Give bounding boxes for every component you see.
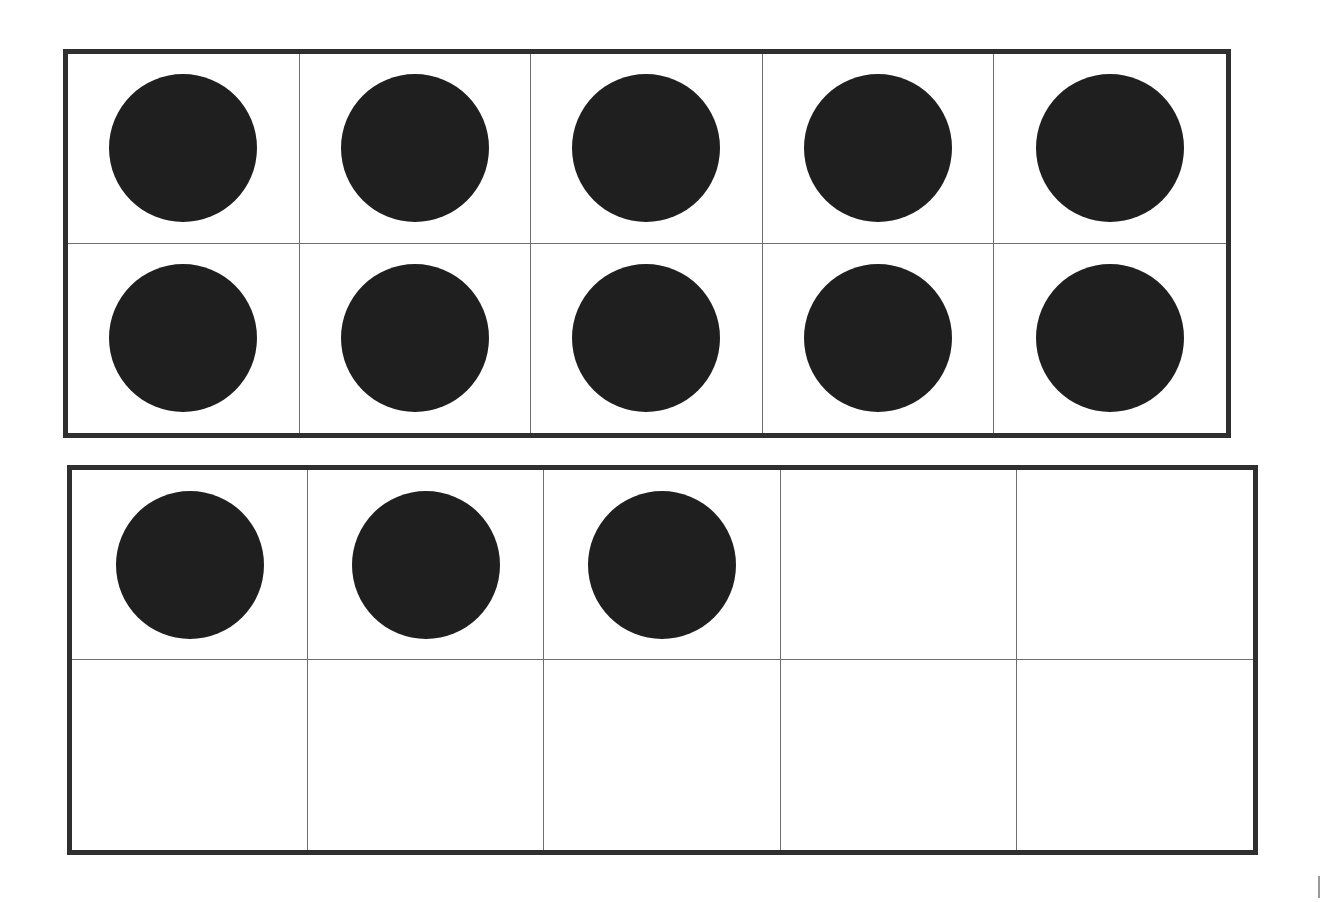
counter-dot-icon <box>804 264 952 412</box>
counter-dot-icon <box>1036 74 1184 222</box>
ten-frame-cell <box>72 470 308 660</box>
ten-frame-cell <box>308 470 544 660</box>
ten-frame-cell <box>781 470 1017 660</box>
ten-frame-cell <box>994 244 1226 434</box>
ten-frame-cell <box>544 660 780 850</box>
counter-dot-icon <box>352 491 500 639</box>
ten-frame-cell <box>544 470 780 660</box>
bottom-ten-frame <box>67 465 1258 855</box>
counter-dot-icon <box>588 491 736 639</box>
counter-dot-icon <box>572 264 720 412</box>
counter-dot-icon <box>1036 264 1184 412</box>
counter-dot-icon <box>804 74 952 222</box>
ten-frame-cell <box>300 54 532 244</box>
ten-frame-cell <box>763 244 995 434</box>
ten-frame-cell <box>68 244 300 434</box>
counter-dot-icon <box>572 74 720 222</box>
counter-dot-icon <box>116 491 264 639</box>
ten-frame-cell <box>531 244 763 434</box>
counter-dot-icon <box>109 264 257 412</box>
ten-frame-cell <box>994 54 1226 244</box>
ten-frame-cell <box>1017 660 1253 850</box>
ten-frame-cell <box>763 54 995 244</box>
ten-frame-cell <box>531 54 763 244</box>
ten-frame-cell <box>300 244 532 434</box>
page-edge-mark <box>1318 876 1320 898</box>
ten-frame-cell <box>308 660 544 850</box>
counter-dot-icon <box>341 74 489 222</box>
counter-dot-icon <box>109 74 257 222</box>
ten-frame-cell <box>1017 470 1253 660</box>
top-ten-frame <box>63 49 1231 438</box>
ten-frame-cell <box>68 54 300 244</box>
ten-frame-cell <box>72 660 308 850</box>
counter-dot-icon <box>341 264 489 412</box>
ten-frame-cell <box>781 660 1017 850</box>
